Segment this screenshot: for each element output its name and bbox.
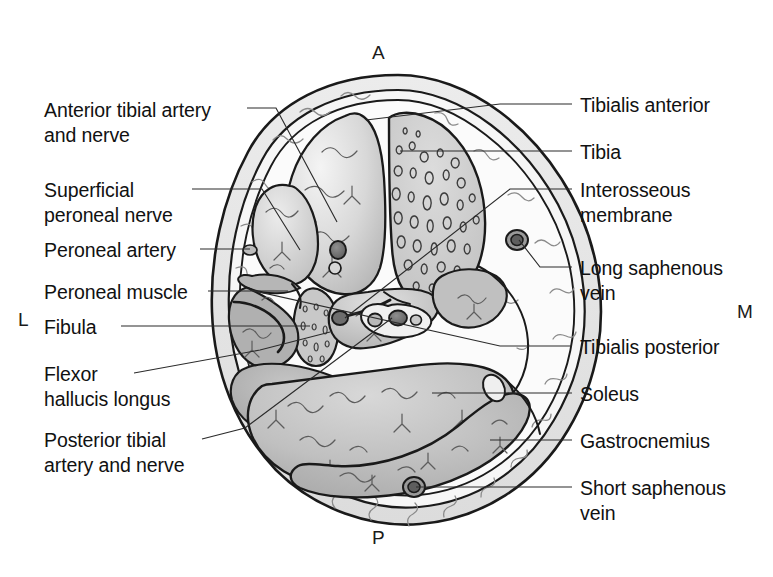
superficial-peroneal-nerve-vessel — [243, 245, 257, 255]
label-superficial-peroneal-nerve: Superficialperoneal nerve — [44, 178, 173, 228]
label-interosseous-membrane: Interosseousmembrane — [580, 178, 690, 228]
label-tibialis-posterior: Tibialis posterior — [580, 335, 719, 360]
label-soleus: Soleus — [580, 382, 639, 407]
label-line: Fibula — [44, 315, 97, 340]
label-line: Superficial — [44, 178, 173, 203]
label-fibula: Fibula — [44, 315, 97, 340]
label-line: Posterior tibial — [44, 428, 184, 453]
label-flexor-hallucis-longus: Flexorhallucis longus — [44, 362, 170, 412]
label-line: vein — [580, 501, 726, 526]
label-line: Long saphenous — [580, 256, 723, 281]
label-peroneal-artery: Peroneal artery — [44, 238, 176, 263]
label-line: Tibialis anterior — [580, 93, 710, 118]
orientation-marker-posterior: P — [372, 528, 385, 548]
orientation-marker-lateral: L — [18, 310, 29, 330]
label-anterior-tibial-artery-and-nerve: Anterior tibial arteryand nerve — [44, 98, 211, 148]
label-line: membrane — [580, 203, 690, 228]
label-line: Peroneal artery — [44, 238, 176, 263]
label-gastrocnemius: Gastrocnemius — [580, 429, 710, 454]
label-line: and nerve — [44, 123, 211, 148]
label-line: Tibia — [580, 140, 621, 165]
orientation-marker-medial: M — [737, 302, 753, 322]
label-line: peroneal nerve — [44, 203, 173, 228]
label-tibialis-anterior: Tibialis anterior — [580, 93, 710, 118]
label-tibia: Tibia — [580, 140, 621, 165]
orientation-marker-anterior: A — [372, 43, 385, 63]
anatomical-figure: Anterior tibial arteryand nerveSuperfici… — [0, 0, 773, 577]
label-line: Gastrocnemius — [580, 429, 710, 454]
label-line: Peroneal muscle — [44, 280, 188, 305]
label-line: Soleus — [580, 382, 639, 407]
label-line: vein — [580, 281, 723, 306]
label-peroneal-muscle: Peroneal muscle — [44, 280, 188, 305]
label-line: Interosseous — [580, 178, 690, 203]
label-long-saphenous-vein: Long saphenousvein — [580, 256, 723, 306]
label-short-saphenous-vein: Short saphenousvein — [580, 476, 726, 526]
label-line: hallucis longus — [44, 387, 170, 412]
label-line: Tibialis posterior — [580, 335, 719, 360]
label-posterior-tibial-artery-and-nerve: Posterior tibialartery and nerve — [44, 428, 184, 478]
label-line: Anterior tibial artery — [44, 98, 211, 123]
label-line: Short saphenous — [580, 476, 726, 501]
label-line: Flexor — [44, 362, 170, 387]
label-line: artery and nerve — [44, 453, 184, 478]
